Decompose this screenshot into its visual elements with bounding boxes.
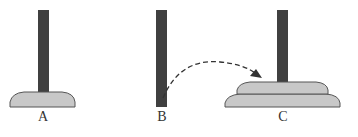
peg-label-c: C — [278, 109, 287, 125]
peg-label-a: A — [38, 109, 48, 125]
disk-c-bottom — [225, 94, 340, 107]
peg-a — [38, 10, 49, 94]
peg-c — [277, 10, 288, 83]
disk-c-top — [237, 82, 328, 94]
peg-label-b: B — [157, 109, 166, 125]
disk-a-1 — [10, 92, 75, 107]
peg-a-group — [10, 10, 75, 107]
peg-c-group — [225, 10, 340, 107]
tower-of-hanoi-diagram — [0, 0, 358, 137]
peg-b — [156, 10, 167, 107]
peg-b-group — [156, 10, 167, 107]
